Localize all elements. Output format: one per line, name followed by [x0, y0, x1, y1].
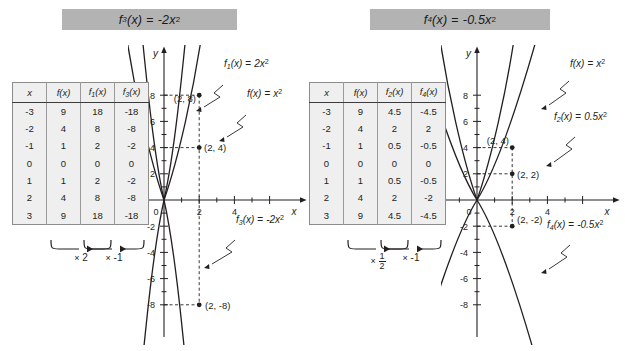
banner-fn-arg: (x) — [127, 13, 142, 27]
table-row: -110.5-0.5 — [310, 138, 446, 155]
y-tick-label-m4: -4 — [460, 248, 468, 258]
callout-arrow-f3 — [212, 240, 235, 264]
cell: 4 — [344, 120, 378, 137]
cell: 3 — [310, 207, 344, 225]
table-right: x f(x) f2(x) f4(x) -394.5-4.5 -2422 -110… — [309, 82, 446, 225]
table-row: -248-8 — [13, 120, 149, 137]
cell: -0.5 — [412, 138, 446, 155]
point-2-m8 — [197, 302, 202, 307]
table-row: -394.5-4.5 — [310, 103, 446, 121]
y-axis-label: y — [152, 48, 159, 59]
banner-rhs-sup: 2 — [176, 15, 181, 24]
cell: 1 — [344, 138, 378, 155]
bracket-xm1-label: × -1 — [82, 252, 146, 263]
cell: 1 — [310, 172, 344, 189]
table-row: 394.5-4.5 — [310, 207, 446, 225]
banner-f3: f3(x)=-2x2 — [62, 9, 237, 30]
banner-rhs-sup: 2 — [492, 15, 497, 24]
cell: 1 — [47, 172, 81, 189]
callout-head-f2 — [546, 162, 552, 167]
cell: 9 — [344, 207, 378, 225]
cell: 3 — [13, 207, 47, 225]
bracket-xm1-label: × -1 — [379, 252, 443, 263]
point-2-8 — [197, 93, 202, 98]
point-label-2-m8: (2, -8) — [205, 300, 230, 311]
table-left: x f(x) f1(x) f3(x) -3918-18 -248-8 -112-… — [12, 82, 149, 225]
table-row: 110.5-0.5 — [310, 172, 446, 189]
cell: -3 — [310, 103, 344, 121]
curve-label-f: f(x)=x2 — [247, 88, 282, 99]
callout-arrow-f — [227, 115, 246, 137]
cell: -1 — [310, 138, 344, 155]
callout-arrow-f1 — [204, 85, 223, 107]
cell: -4.5 — [412, 207, 446, 225]
curve-label-f4: f4(x)=-0.5x2 — [547, 219, 603, 231]
cell: 2 — [13, 189, 47, 206]
cell: 0 — [115, 155, 149, 172]
cell: 0 — [81, 155, 115, 172]
curve-label-f3: f3(x)=-2x2 — [236, 214, 284, 226]
y-tick-label-m6: -6 — [460, 274, 468, 284]
callout-arrow-f — [549, 81, 569, 105]
callout-arrow-f2 — [554, 137, 575, 162]
cell: 0.5 — [378, 138, 412, 155]
guide-lines — [477, 148, 512, 227]
col-header-f4x: f4(x) — [412, 83, 446, 103]
col-header-f2x: f2(x) — [378, 83, 412, 103]
bracket-xm1: × -1 — [82, 240, 146, 263]
cell: -8 — [115, 120, 149, 137]
cell: -2 — [115, 138, 149, 155]
cell: 1 — [47, 138, 81, 155]
cell: 2 — [378, 189, 412, 206]
y-tick-label-6: 6 — [463, 117, 468, 127]
cell: -4.5 — [412, 103, 446, 121]
point-2-m2 — [510, 224, 515, 229]
point-2-4 — [510, 145, 515, 150]
callout-arrow-f4 — [549, 245, 570, 269]
table-row: 112-2 — [13, 172, 149, 189]
x-tick-label-1: 0 — [153, 207, 158, 217]
table-row: 248-8 — [13, 189, 149, 206]
table-header-row: x f(x) f1(x) f3(x) — [13, 83, 149, 103]
y-tick-label-m8: -8 — [460, 300, 468, 310]
cell: 1 — [344, 172, 378, 189]
cell: 4.5 — [378, 207, 412, 225]
y-tick-label-8: 8 — [150, 91, 155, 101]
callout-head-f — [541, 105, 547, 110]
table-row: 0000 — [310, 155, 446, 172]
cell: 0 — [378, 155, 412, 172]
cell: 4 — [344, 189, 378, 206]
point-label-2-4: (2, 4) — [487, 135, 509, 146]
cell: -2 — [310, 120, 344, 137]
cell: 0 — [412, 155, 446, 172]
cell: 0.5 — [378, 172, 412, 189]
callout-head-f4 — [541, 269, 547, 274]
banner-eq: = — [142, 13, 158, 27]
graph-left-svg: -2 0 2 4 8 6 4 2 -2 -4 -6 -8 y x — [128, 45, 312, 345]
curve-f — [441, 45, 517, 200]
col-header-x: x — [310, 83, 344, 103]
table-row: -2422 — [310, 120, 446, 137]
cell: 2 — [310, 189, 344, 206]
banner-fn-arg: (x) — [432, 13, 447, 27]
table-row: 3918-18 — [13, 207, 149, 225]
banner-f4: f4(x)=-0.5x2 — [370, 9, 550, 30]
bracket-xm1: × -1 — [379, 240, 443, 263]
cell: 0 — [344, 155, 378, 172]
cell: 8 — [81, 189, 115, 206]
callout-head-f3 — [204, 264, 210, 269]
x-axis-label: x — [291, 206, 298, 217]
banner-rhs: -0.5x — [463, 13, 492, 27]
point-label-2-4: (2, 4) — [204, 142, 226, 153]
cell: 0 — [310, 155, 344, 172]
point-label-2-8: (2, 8) — [174, 93, 196, 104]
cell: -18 — [115, 103, 149, 121]
table-header-row: x f(x) f2(x) f4(x) — [310, 83, 446, 103]
cell: 0 — [13, 155, 47, 172]
curve-label-f2: f2(x)=0.5x2 — [554, 111, 607, 123]
table-left-wrap: x f(x) f1(x) f3(x) -3918-18 -248-8 -112-… — [12, 82, 149, 225]
table-row: -112-2 — [13, 138, 149, 155]
y-axis-label: y — [465, 48, 472, 59]
col-header-f3x: f3(x) — [115, 83, 149, 103]
point-2-4 — [197, 145, 202, 150]
